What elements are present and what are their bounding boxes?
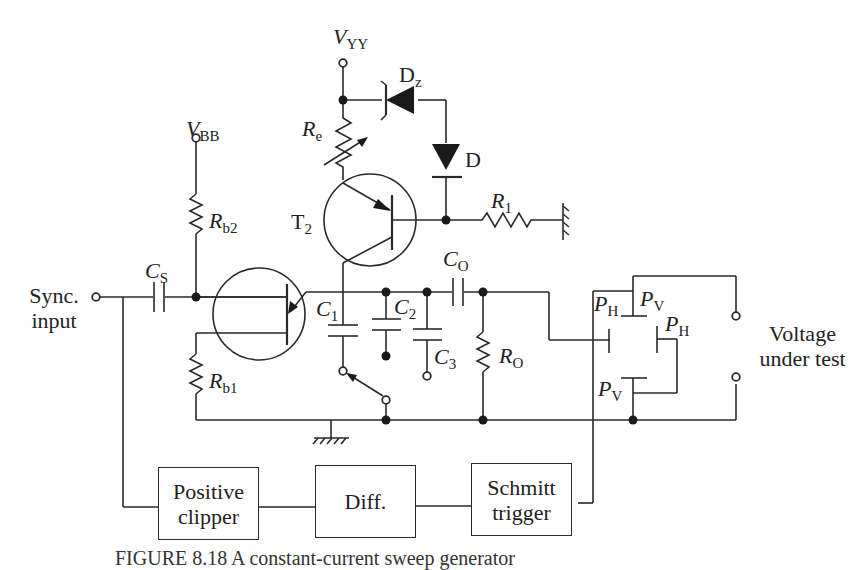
label-r1-symbol: R bbox=[491, 188, 504, 213]
sweep-node-wire bbox=[306, 292, 610, 340]
label-r1-subscript: 1 bbox=[504, 200, 512, 216]
ujt-transistor bbox=[196, 268, 306, 360]
label-vbb: VBB bbox=[186, 118, 219, 144]
resistor-ro bbox=[477, 292, 489, 420]
label-rb2-symbol: R bbox=[209, 208, 222, 233]
label-re: Re bbox=[302, 118, 322, 144]
label-rb2-subscript: b2 bbox=[222, 220, 237, 236]
diff-block: Diff. bbox=[315, 465, 416, 538]
resistor-rb1 bbox=[190, 333, 202, 420]
voltage-under-test-line1: Voltage bbox=[750, 321, 855, 346]
label-vyy-subscript: YY bbox=[346, 36, 368, 52]
label-c2: C2 bbox=[394, 296, 416, 322]
junction-dots bbox=[192, 96, 638, 425]
label-t2-subscript: 2 bbox=[304, 221, 312, 237]
label-c1-subscript: 1 bbox=[331, 308, 339, 324]
positive-clipper-line2: clipper bbox=[173, 504, 244, 529]
label-cs-symbol: C bbox=[145, 258, 160, 283]
label-c3-symbol: C bbox=[434, 344, 449, 369]
transistor-t2 bbox=[324, 174, 446, 293]
voltage-under-test-line2: under test bbox=[750, 346, 855, 371]
label-pv-top-symbol: P bbox=[640, 286, 653, 311]
label-ph-left-symbol: P bbox=[594, 291, 607, 316]
voltage-under-test-label: Voltage under test bbox=[750, 321, 855, 371]
label-c1: C1 bbox=[316, 298, 338, 324]
vbb-supply-wire bbox=[190, 140, 202, 297]
label-dz: Dz bbox=[399, 64, 422, 90]
label-vbb-symbol: V bbox=[186, 116, 199, 141]
sync-input-label: Sync. input bbox=[26, 283, 82, 333]
label-vyy-symbol: V bbox=[333, 24, 346, 49]
label-dz-subscript: z bbox=[415, 74, 422, 90]
label-d: D bbox=[465, 149, 481, 171]
label-re-subscript: e bbox=[315, 128, 322, 144]
label-co: CO bbox=[443, 248, 469, 274]
label-c3-subscript: 3 bbox=[449, 356, 457, 372]
schmitt-trigger-line2: trigger bbox=[487, 500, 555, 525]
label-pv-bottom-symbol: P bbox=[598, 376, 611, 401]
figure-caption: FIGURE 8.18 A constant-current sweep gen… bbox=[115, 547, 515, 570]
label-pv-top: PV bbox=[640, 288, 664, 314]
label-r1: R1 bbox=[491, 190, 512, 216]
open-terminals bbox=[92, 59, 740, 404]
positive-clipper-block: Positive clipper bbox=[158, 467, 259, 540]
label-c1-symbol: C bbox=[316, 296, 331, 321]
label-rb1-subscript: b1 bbox=[222, 380, 237, 396]
label-t2-symbol: T bbox=[291, 209, 304, 234]
label-rb1: Rb1 bbox=[209, 370, 237, 396]
label-co-symbol: C bbox=[443, 246, 458, 271]
resistor-re-variable bbox=[324, 100, 368, 180]
label-re-symbol: R bbox=[302, 116, 315, 141]
label-vyy: VYY bbox=[333, 26, 368, 52]
sync-input-label-line2: input bbox=[26, 308, 82, 333]
label-c3: C3 bbox=[434, 346, 456, 372]
label-vbb-subscript: BB bbox=[199, 128, 219, 144]
ground-right bbox=[563, 203, 569, 240]
label-ph-right-symbol: P bbox=[665, 311, 678, 336]
ground-bus bbox=[196, 420, 736, 444]
diff-label: Diff. bbox=[345, 489, 387, 514]
positive-clipper-line1: Positive bbox=[173, 479, 244, 504]
label-ro: RO bbox=[499, 345, 523, 371]
label-pv-bottom: PV bbox=[598, 378, 622, 404]
label-ph-left-subscript: H bbox=[607, 303, 618, 319]
label-ro-symbol: R bbox=[499, 343, 512, 368]
label-rb2: Rb2 bbox=[209, 210, 237, 236]
label-d-symbol: D bbox=[465, 147, 481, 172]
label-ro-subscript: O bbox=[512, 355, 523, 371]
capacitor-cs bbox=[154, 282, 164, 312]
label-pv-top-subscript: V bbox=[653, 298, 664, 314]
label-co-subscript: O bbox=[458, 258, 469, 274]
label-ph-left: PH bbox=[594, 293, 618, 319]
diode-d bbox=[432, 144, 462, 177]
label-ph-right: PH bbox=[665, 313, 689, 339]
sync-input-label-line1: Sync. bbox=[26, 283, 82, 308]
schmitt-trigger-block: Schmitt trigger bbox=[471, 463, 572, 536]
capacitor-co bbox=[453, 278, 463, 306]
label-c2-subscript: 2 bbox=[409, 306, 417, 322]
label-cs-subscript: S bbox=[160, 270, 168, 286]
label-pv-bottom-subscript: V bbox=[611, 388, 622, 404]
label-ph-right-subscript: H bbox=[678, 323, 689, 339]
label-cs: CS bbox=[145, 260, 168, 286]
label-rb1-symbol: R bbox=[209, 368, 222, 393]
label-dz-symbol: D bbox=[399, 62, 415, 87]
label-t2: T2 bbox=[291, 211, 312, 237]
label-c2-symbol: C bbox=[394, 294, 409, 319]
schmitt-trigger-line1: Schmitt bbox=[487, 475, 555, 500]
capacitor-switch bbox=[346, 373, 386, 420]
